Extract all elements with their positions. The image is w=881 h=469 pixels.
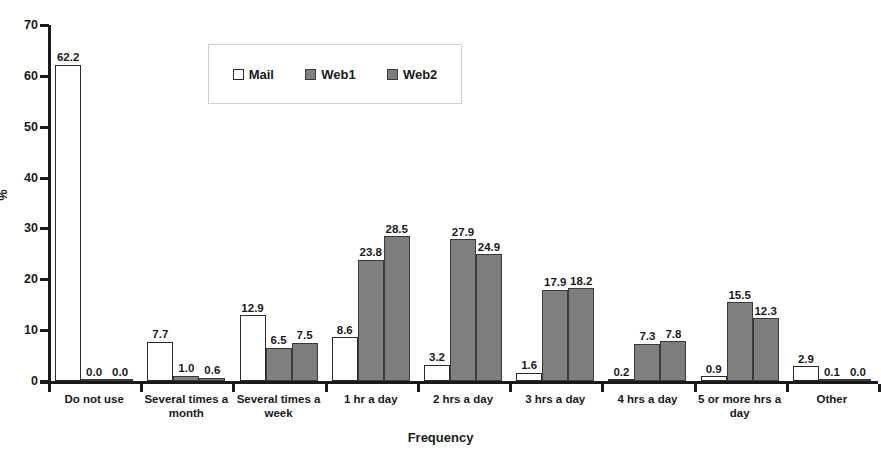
y-axis-labels: 010203040506070: [0, 0, 38, 469]
bar-mail[interactable]: 0.9: [701, 376, 727, 381]
bar-value-label: 0.0: [850, 367, 866, 379]
chart-legend: MailWeb1Web2: [208, 44, 462, 104]
legend-swatch-icon: [305, 69, 316, 80]
y-axis-tick-label: 60: [4, 70, 38, 83]
bar-web1[interactable]: 6.5: [266, 348, 292, 381]
bar-web2[interactable]: 18.2: [568, 288, 594, 381]
x-axis-category-label: 1 hr a day: [325, 392, 417, 406]
bar-web2[interactable]: 0.0: [845, 379, 871, 381]
bar-group: 0.915.512.3: [701, 25, 779, 381]
bar-web2[interactable]: 0.0: [107, 379, 133, 381]
y-axis-tick-label: 70: [4, 19, 38, 32]
bar-value-label: 1.6: [521, 360, 537, 372]
legend-item-web2[interactable]: Web2: [387, 67, 437, 82]
x-axis-tick: [694, 384, 697, 392]
x-axis-tick: [417, 384, 420, 392]
bar-web1[interactable]: 23.8: [358, 260, 384, 381]
bar-value-label: 27.9: [452, 227, 474, 239]
bar-web1[interactable]: 27.9: [450, 239, 476, 381]
bar-mail[interactable]: 8.6: [332, 337, 358, 381]
bar-web1[interactable]: 1.0: [173, 376, 199, 381]
y-axis-tick-label: 50: [4, 121, 38, 134]
legend-item-web1[interactable]: Web1: [305, 67, 355, 82]
bar-value-label: 15.5: [728, 290, 750, 302]
bar-value-label: 0.0: [86, 367, 102, 379]
bar-value-label: 0.2: [613, 367, 629, 379]
bar-web2[interactable]: 12.3: [753, 318, 779, 381]
bar-value-label: 7.8: [665, 329, 681, 341]
x-axis-category-label: Other: [786, 392, 878, 406]
y-axis-tick-label: 20: [4, 273, 38, 286]
y-axis-tick-label: 10: [4, 324, 38, 337]
bar-value-label: 7.7: [152, 329, 168, 341]
x-axis-title: Frequency: [0, 430, 881, 445]
bar-mail[interactable]: 3.2: [424, 365, 450, 381]
bar-web2[interactable]: 7.8: [660, 341, 686, 381]
bar-mail[interactable]: 2.9: [793, 366, 819, 381]
legend-swatch-icon: [387, 69, 398, 80]
bar-web1[interactable]: 15.5: [727, 302, 753, 381]
bar-mail[interactable]: 62.2: [55, 65, 81, 381]
legend-items: MailWeb1Web2: [209, 45, 461, 103]
x-axis-tick: [232, 384, 235, 392]
x-axis-tick: [48, 384, 51, 392]
bar-web2[interactable]: 28.5: [384, 236, 410, 381]
x-axis-tick: [786, 384, 789, 392]
bar-web1[interactable]: 0.1: [819, 379, 845, 381]
bar-value-label: 0.6: [204, 365, 220, 377]
x-axis-category-label: Do not use: [48, 392, 140, 406]
bar-value-label: 17.9: [544, 277, 566, 289]
bar-mail[interactable]: 0.2: [608, 379, 634, 381]
bar-value-label: 12.3: [754, 306, 776, 318]
legend-label: Mail: [249, 67, 274, 82]
x-axis-tick: [325, 384, 328, 392]
x-axis-line: [40, 381, 878, 384]
bar-mail[interactable]: 7.7: [147, 342, 173, 381]
x-axis-category-label: Several times a week: [232, 392, 324, 421]
x-axis-tick: [509, 384, 512, 392]
bar-value-label: 0.0: [112, 367, 128, 379]
bar-value-label: 7.3: [639, 331, 655, 343]
x-axis-category-label: Several times a month: [140, 392, 232, 421]
bar-web1[interactable]: 7.3: [634, 344, 660, 381]
bar-value-label: 2.9: [798, 354, 814, 366]
x-axis-category-label: 3 hrs a day: [509, 392, 601, 406]
bar-web2[interactable]: 24.9: [476, 254, 502, 381]
x-axis-tick: [140, 384, 143, 392]
legend-label: Web1: [321, 67, 355, 82]
bar-value-label: 28.5: [386, 224, 408, 236]
bar-web2[interactable]: 0.6: [199, 378, 225, 381]
bar-value-label: 7.5: [297, 330, 313, 342]
bar-group: 0.27.37.8: [608, 25, 686, 381]
bar-group: 62.20.00.0: [55, 25, 133, 381]
bar-value-label: 1.0: [178, 363, 194, 375]
bar-mail[interactable]: 12.9: [240, 315, 266, 381]
x-axis-category-label: 5 or more hrs a day: [694, 392, 786, 421]
bar-value-label: 3.2: [429, 352, 445, 364]
bar-value-label: 24.9: [478, 242, 500, 254]
x-axis-category-label: 4 hrs a day: [601, 392, 693, 406]
y-axis-tick-label: 0: [4, 375, 38, 388]
bar-value-label: 23.8: [360, 247, 382, 259]
chart-page: % 010203040506070 62.20.00.07.71.00.612.…: [0, 0, 881, 469]
legend-label: Web2: [403, 67, 437, 82]
y-axis-tick-label: 30: [4, 222, 38, 235]
bar-value-label: 18.2: [570, 276, 592, 288]
bar-value-label: 0.9: [706, 364, 722, 376]
legend-swatch-icon: [233, 69, 244, 80]
legend-item-mail[interactable]: Mail: [233, 67, 274, 82]
bar-web2[interactable]: 7.5: [292, 343, 318, 381]
x-axis-category-label: 2 hrs a day: [417, 392, 509, 406]
bar-value-label: 12.9: [241, 303, 263, 315]
bar-value-label: 6.5: [271, 335, 287, 347]
bar-group: 2.90.10.0: [793, 25, 871, 381]
bar-web1[interactable]: 17.9: [542, 290, 568, 381]
plot-area: 62.20.00.07.71.00.612.96.57.58.623.828.5…: [48, 25, 878, 381]
bar-group: 1.617.918.2: [516, 25, 594, 381]
bar-mail[interactable]: 1.6: [516, 373, 542, 381]
bar-value-label: 0.1: [824, 367, 840, 379]
bar-web1[interactable]: 0.0: [81, 379, 107, 381]
y-axis-tick-label: 40: [4, 172, 38, 185]
x-axis-tick: [601, 384, 604, 392]
bar-value-label: 62.2: [57, 52, 79, 64]
